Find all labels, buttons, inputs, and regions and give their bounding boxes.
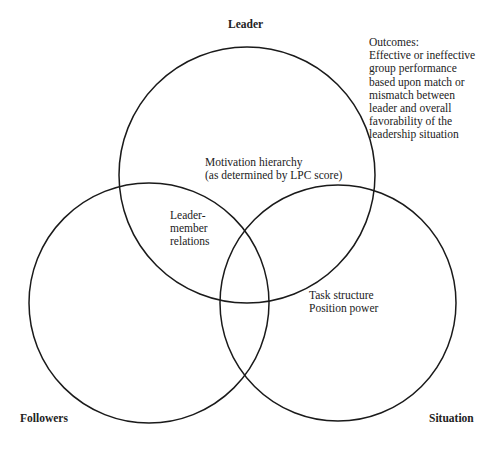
followers-circle bbox=[29, 183, 269, 423]
leader-label: Leader bbox=[228, 18, 263, 31]
outcomes-line: Effective or ineffective bbox=[369, 49, 475, 62]
leader-member-text-1: Leader- bbox=[170, 209, 206, 222]
outcomes-line: leader and overall bbox=[369, 102, 475, 115]
followers-label: Followers bbox=[20, 412, 68, 425]
leader-member-text-2: member bbox=[170, 222, 208, 235]
task-structure-text: Task structure bbox=[309, 289, 374, 302]
outcomes-note: Outcomes: Effective or ineffective group… bbox=[369, 36, 475, 142]
lpc-score-text: (as determined by LPC score) bbox=[205, 169, 342, 182]
outcomes-line: group performance bbox=[369, 62, 475, 75]
leader-member-text-3: relations bbox=[170, 235, 210, 248]
outcomes-line: leadership situation bbox=[369, 128, 475, 141]
outcomes-line: based upon match or bbox=[369, 76, 475, 89]
motivation-hierarchy-text: Motivation hierarchy bbox=[205, 156, 302, 169]
outcomes-line: Outcomes: bbox=[369, 36, 475, 49]
outcomes-line: mismatch between bbox=[369, 89, 475, 102]
situation-label: Situation bbox=[429, 412, 474, 425]
position-power-text: Position power bbox=[309, 302, 378, 315]
outcomes-line: favorability of the bbox=[369, 115, 475, 128]
